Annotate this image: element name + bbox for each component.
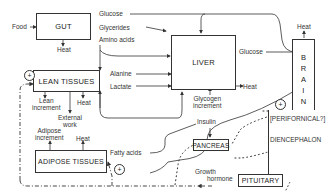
amino-acids-label: Amino acids	[99, 36, 134, 43]
glucose-label-top: Glucose	[99, 10, 123, 17]
diencephalon-label: DIENCEPHALON	[270, 136, 321, 143]
lean-tissues-box: LEAN TISSUES	[33, 70, 100, 92]
lean-plus-sign: +	[24, 70, 35, 81]
food-label: Food	[12, 23, 27, 30]
external-work-label: External work	[58, 114, 82, 128]
adipose-increment-label: Adipose increment	[35, 127, 64, 141]
gut-box: GUT	[36, 13, 91, 40]
adipose-heat-label: Heat	[76, 135, 90, 142]
growth-hormone-label: Growth hormone	[195, 168, 233, 182]
liver-heat-label: Heat	[243, 83, 257, 90]
glycerides-label: Glycerides	[99, 24, 130, 31]
perifornical-label: [PERIFORNICAL?]	[270, 115, 325, 122]
pancreas-box: PANCREAS	[193, 139, 229, 151]
brain-plus-sign: +	[275, 99, 286, 110]
brain-label: B R A I N	[301, 52, 307, 107]
fatty-acids-label: Fatty acids	[110, 149, 141, 156]
liver-glucose-label: Glucose	[239, 48, 263, 55]
liver-box: LIVER	[171, 35, 236, 90]
liver-label: LIVER	[192, 58, 215, 67]
insulin-label: Insulin	[197, 118, 216, 125]
adipose-tissues-box: ADIPOSE TISSUES	[35, 150, 107, 173]
gut-label: GUT	[55, 22, 71, 31]
alanine-label: Alanine	[110, 70, 132, 77]
pituitary-box: PITUITARY	[238, 174, 283, 187]
glycogen-increment-label: Glycogen increment	[193, 95, 222, 109]
gut-heat-label: Heat	[57, 46, 71, 53]
lean-increment-label: Lean increment	[32, 97, 61, 111]
lean-heat-label: Heat	[77, 99, 91, 106]
adipose-plus-sign: +	[114, 164, 125, 175]
brain-heat-label: Heat	[297, 23, 311, 30]
lactate-label: Lactate	[110, 83, 131, 90]
